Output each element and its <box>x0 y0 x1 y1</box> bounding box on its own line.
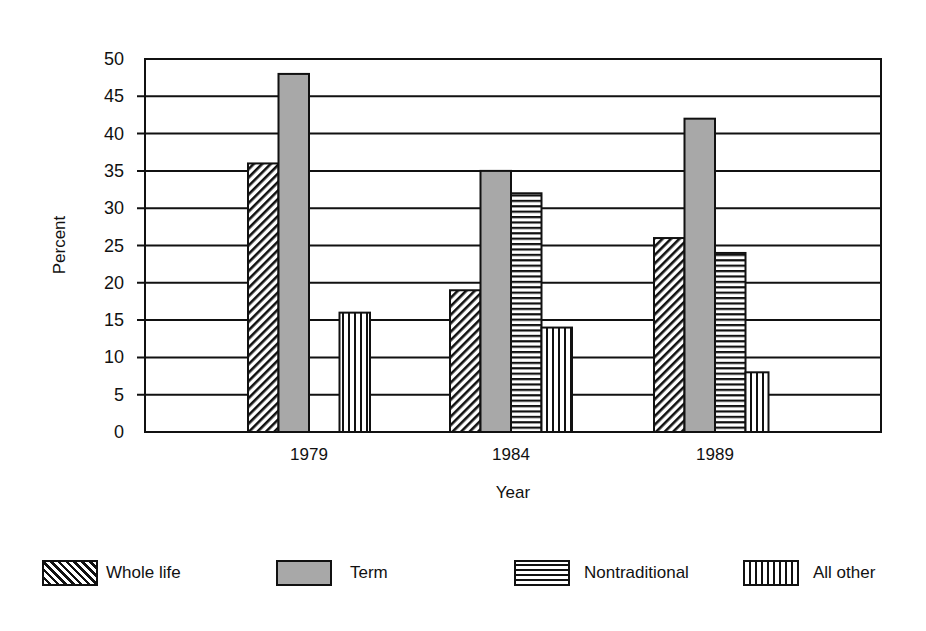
y-tick-label: 40 <box>104 124 124 144</box>
bar-all-other-1989 <box>746 372 769 432</box>
whole-life-swatch-icon <box>42 560 98 586</box>
legend-item-whole-life: Whole life <box>42 558 181 588</box>
y-tick-label: 0 <box>114 422 124 442</box>
bar-nontraditional-1989 <box>715 253 746 432</box>
y-tick-label: 50 <box>104 49 124 69</box>
x-axis-label: Year <box>496 483 531 502</box>
legend-item-all-other: All other <box>743 558 875 588</box>
bar-whole-life-1989 <box>654 238 685 432</box>
bar-whole-life-1984 <box>450 290 481 432</box>
bar-whole-life-1979 <box>248 163 279 432</box>
x-category-label: 1984 <box>492 445 530 464</box>
bar-all-other-1984 <box>542 328 573 432</box>
bar-term-1979 <box>279 74 310 432</box>
y-axis-label: Percent <box>50 215 69 274</box>
y-tick-label: 10 <box>104 347 124 367</box>
all-other-swatch-icon <box>743 560 799 586</box>
y-tick-label: 15 <box>104 310 124 330</box>
bar-all-other-1979 <box>340 313 371 432</box>
legend-item-term: Term <box>276 558 388 588</box>
bars <box>248 74 769 432</box>
y-axis-ticks: 05101520253035404550 <box>104 49 124 442</box>
legend-label: Nontraditional <box>584 563 689 583</box>
legend-label: All other <box>813 563 875 583</box>
x-category-label: 1979 <box>290 445 328 464</box>
legend-label: Term <box>350 563 388 583</box>
bar-chart: 05101520253035404550 197919841989 Year P… <box>0 0 926 631</box>
legend-label: Whole life <box>106 563 181 583</box>
bar-nontraditional-1984 <box>511 193 542 432</box>
y-tick-label: 30 <box>104 198 124 218</box>
y-tick-label: 5 <box>114 385 124 405</box>
y-tick-label: 25 <box>104 236 124 256</box>
x-category-label: 1989 <box>696 445 734 464</box>
term-swatch-icon <box>276 560 332 586</box>
y-tick-label: 20 <box>104 273 124 293</box>
legend-item-nontraditional: Nontraditional <box>514 558 689 588</box>
y-tick-label: 45 <box>104 86 124 106</box>
y-tick-label: 35 <box>104 161 124 181</box>
legend: Whole life Term Nontraditional All other <box>0 558 926 594</box>
bar-term-1989 <box>685 119 716 432</box>
x-axis-categories: 197919841989 <box>290 445 734 464</box>
bar-term-1984 <box>481 171 512 432</box>
nontraditional-swatch-icon <box>514 560 570 586</box>
